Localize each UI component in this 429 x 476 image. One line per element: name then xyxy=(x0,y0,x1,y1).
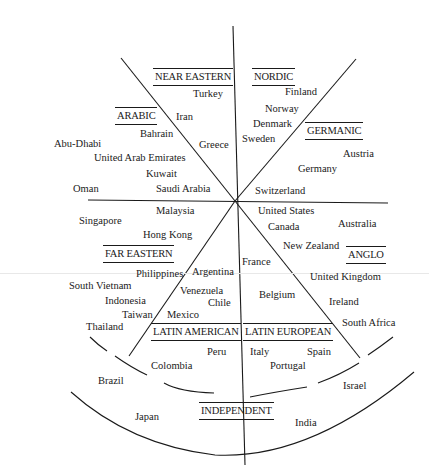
country-label: Malaysia xyxy=(156,205,195,217)
country-label: Canada xyxy=(268,221,300,233)
cultural-clusters-diagram: NEAR EASTERN NORDIC ARABIC GERMANIC FAR … xyxy=(0,0,429,476)
country-label: Japan xyxy=(135,411,159,423)
country-label: Chile xyxy=(208,297,231,309)
country-label: New Zealand xyxy=(283,240,339,252)
country-label: Finland xyxy=(285,86,317,98)
cluster-label-near-eastern: NEAR EASTERN xyxy=(153,68,233,86)
country-label: Indonesia xyxy=(105,295,146,307)
cluster-label-arabic: ARABIC xyxy=(115,107,157,125)
country-label: Hong Kong xyxy=(143,229,192,241)
country-label: Greece xyxy=(199,139,229,151)
country-label: Norway xyxy=(265,103,299,115)
country-label: Brazil xyxy=(98,375,124,387)
inner-arc-segment xyxy=(250,387,307,397)
country-label: Venezuela xyxy=(180,285,223,297)
country-label: India xyxy=(295,417,317,429)
cluster-label-independent: INDEPENDENT xyxy=(199,402,274,420)
country-label: Italy xyxy=(250,346,269,358)
country-label: Kuwait xyxy=(146,168,177,180)
country-label: Sweden xyxy=(242,133,275,145)
country-label: Bahrain xyxy=(140,128,173,140)
inner-arc-segment xyxy=(164,383,214,393)
cluster-label-far-eastern: FAR EASTERN xyxy=(103,245,174,263)
divider-vertical-line xyxy=(233,26,245,465)
country-label: Iran xyxy=(176,111,193,123)
inner-arc-segment xyxy=(368,337,393,355)
country-label: South Africa xyxy=(342,317,395,329)
country-label: Austria xyxy=(343,148,374,160)
inner-arc-segment xyxy=(115,356,147,375)
country-label: Portugal xyxy=(270,360,306,372)
country-label: France xyxy=(242,256,271,268)
country-label: Oman xyxy=(73,183,99,195)
country-label: Thailand xyxy=(86,321,123,333)
country-label: Peru xyxy=(207,346,226,358)
country-label: Taiwan xyxy=(122,309,153,321)
country-label: Israel xyxy=(343,380,366,392)
country-label: Saudi Arabia xyxy=(156,183,211,195)
country-label: Ireland xyxy=(329,296,359,308)
country-label: Abu-Dhabi xyxy=(54,138,101,150)
country-label: United Kingdom xyxy=(310,271,381,283)
country-label: Belgium xyxy=(259,289,295,301)
country-label: United Arab Emirates xyxy=(94,152,186,164)
cluster-label-germanic: GERMANIC xyxy=(305,122,363,140)
country-label: Singapore xyxy=(79,215,122,227)
cluster-label-nordic: NORDIC xyxy=(252,68,295,86)
country-label: Spain xyxy=(307,346,331,358)
cluster-label-latin-european: LATIN EUROPEAN xyxy=(243,323,333,341)
country-label: Germany xyxy=(298,163,337,175)
country-label: Turkey xyxy=(193,88,223,100)
country-label: Australia xyxy=(338,218,377,230)
country-label: Philippines xyxy=(136,268,183,280)
country-label: Switzerland xyxy=(255,185,305,197)
country-label: Denmark xyxy=(253,118,292,130)
inner-arc-segment xyxy=(90,337,107,351)
country-label: Colombia xyxy=(151,360,192,372)
cluster-label-latin-american: LATIN AMERICAN xyxy=(151,323,241,341)
cluster-label-anglo: ANGLO xyxy=(346,246,386,264)
country-label: South Vietnam xyxy=(69,280,131,292)
country-label: Argentina xyxy=(192,266,234,278)
country-label: Mexico xyxy=(167,309,199,321)
country-label: United States xyxy=(258,205,314,217)
